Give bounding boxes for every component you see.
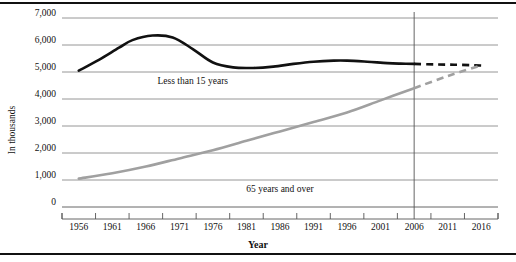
series-projection-65-years-and-over [414,65,481,88]
x-tick-label: 1996 [338,222,357,232]
y-tick-labels-group: 01,0002,0003,0004,0005,0006,0007,000 [35,8,57,207]
x-tick-label: 1956 [69,222,88,232]
y-tick-label: 2,000 [35,143,57,153]
y-axis-title: In thousands [7,106,17,155]
plot-wrapper: 01,0002,0003,0004,0005,0006,0007,000 195… [0,0,516,262]
x-tick-labels-group: 1956196119661971197619811986199119962001… [69,222,491,232]
x-axis-title: Year [248,239,269,250]
x-tick-label: 1961 [103,222,122,232]
data-series-group [79,35,481,178]
series-annotations-group: Less than 15 years65 years and over [158,76,315,194]
x-tick-label: 2001 [371,222,390,232]
y-tick-label: 0 [51,197,56,207]
65-years-and-over-label: 65 years and over [246,184,314,194]
x-tick-label: 1966 [136,222,155,232]
figure-container: 01,0002,0003,0004,0005,0006,0007,000 195… [0,0,516,262]
axis-group [62,207,498,219]
series-line-65-years-and-over [79,88,414,178]
series-projection-less-than-15-years [414,64,481,66]
x-tick-label: 1991 [304,222,323,232]
x-tick-label: 2016 [472,222,491,232]
x-tick-label: 2011 [438,222,457,232]
y-tick-label: 5,000 [35,62,57,72]
line-chart: 01,0002,0003,0004,0005,0006,0007,000 195… [0,0,516,262]
series-line-less-than-15-years [79,35,414,70]
x-tick-marks-group [62,213,498,219]
x-tick-label: 1976 [203,222,222,232]
x-tick-label: 1981 [237,222,256,232]
x-tick-label: 2006 [405,222,424,232]
y-tick-label: 1,000 [35,170,57,180]
less-than-15-years-label: Less than 15 years [158,76,229,86]
y-tick-label: 7,000 [35,8,57,18]
x-tick-label: 1971 [170,222,189,232]
y-tick-label: 6,000 [35,35,57,45]
x-tick-label: 1986 [271,222,290,232]
y-tick-label: 4,000 [35,89,57,99]
y-tick-label: 3,000 [35,116,57,126]
